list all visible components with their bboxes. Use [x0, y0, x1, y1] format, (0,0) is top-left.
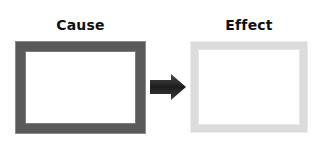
- right-arrow-icon: [149, 73, 188, 101]
- effect-label: Effect: [191, 17, 307, 33]
- effect-frame: [191, 42, 307, 132]
- cause-frame: [16, 42, 145, 133]
- cause-label: Cause: [16, 17, 145, 33]
